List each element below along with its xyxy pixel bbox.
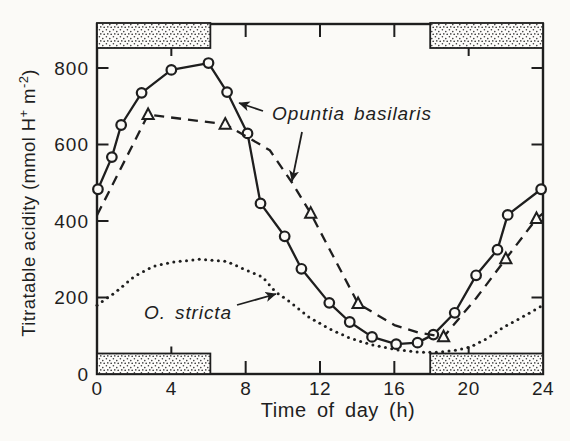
dot-marker: [116, 289, 119, 292]
dot-marker: [378, 345, 381, 348]
dot-marker: [96, 304, 99, 307]
circle-marker: [471, 271, 481, 281]
dot-marker: [229, 262, 232, 265]
dot-marker: [428, 351, 431, 354]
dot-marker: [131, 276, 134, 279]
y-tick-label-200: 200: [54, 287, 89, 308]
y-axis-label: Titratable acidity (mmol H+ m-2): [16, 69, 39, 337]
circle-marker: [107, 152, 117, 162]
x-tick-label-12: 12: [309, 378, 331, 399]
dark-period-bar-top-0: [97, 23, 210, 48]
dot-marker: [365, 342, 368, 345]
dot-marker: [223, 260, 226, 263]
dot-marker: [185, 259, 188, 262]
circle-marker: [243, 129, 253, 139]
dot-marker: [466, 346, 469, 349]
dot-marker: [302, 311, 305, 314]
dot-marker: [313, 319, 316, 322]
dark-period-bar-bottom-1: [430, 354, 543, 375]
dot-marker: [335, 331, 338, 334]
dot-marker: [241, 267, 244, 270]
circle-marker: [324, 298, 334, 308]
dot-marker: [448, 349, 451, 352]
dot-marker: [148, 267, 151, 270]
circle-marker: [222, 87, 232, 97]
dot-marker: [210, 259, 213, 262]
dot-marker: [528, 312, 531, 315]
circle-marker: [116, 120, 126, 130]
y-tick-label-600: 600: [54, 134, 89, 155]
circle-marker: [137, 88, 147, 98]
y-tick-label-0: 0: [77, 364, 89, 385]
dot-marker: [292, 303, 295, 306]
circle-marker: [536, 184, 546, 194]
dot-marker: [191, 258, 194, 261]
dot-marker: [160, 263, 163, 266]
dot-marker: [478, 341, 481, 344]
dot-marker: [454, 349, 457, 352]
dot-marker: [287, 299, 290, 302]
x-tick-label-24: 24: [532, 378, 554, 399]
dot-marker: [494, 331, 497, 334]
dot-marker: [484, 338, 487, 341]
dot-marker: [121, 285, 124, 288]
dot-marker: [522, 315, 525, 318]
label-o-stricta: O. stricta: [144, 302, 232, 323]
dot-marker: [101, 300, 104, 303]
circle-marker: [204, 58, 214, 68]
dot-marker: [253, 272, 256, 275]
x-axis-label: Time of day (h): [261, 399, 416, 421]
dot-marker: [329, 328, 332, 331]
dot-marker: [390, 347, 393, 350]
dot-marker: [235, 264, 238, 267]
circle-marker: [345, 317, 355, 327]
dot-marker: [282, 296, 285, 299]
dot-marker: [403, 349, 406, 352]
dot-marker: [318, 322, 321, 325]
dot-marker: [264, 278, 267, 281]
x-tick-label-4: 4: [166, 378, 177, 399]
dot-marker: [154, 265, 157, 268]
dot-marker: [268, 283, 271, 286]
circle-marker: [391, 339, 401, 349]
dot-marker: [384, 346, 387, 349]
dot-marker: [297, 307, 300, 310]
dot-marker: [324, 325, 327, 328]
dot-marker: [179, 260, 182, 263]
circle-marker: [450, 308, 460, 318]
dot-marker: [472, 344, 475, 347]
figure-container: 020040060080004812162024Time of day (h)T…: [0, 0, 570, 441]
dot-marker: [277, 292, 280, 295]
dot-marker: [126, 281, 129, 284]
dot-marker: [272, 288, 275, 291]
dot-marker: [142, 270, 145, 273]
circle-marker: [167, 65, 177, 75]
dot-marker: [247, 270, 250, 273]
dot-marker: [422, 351, 425, 354]
dot-marker: [359, 340, 362, 343]
dot-marker: [217, 259, 220, 262]
dot-marker: [307, 315, 310, 318]
dark-period-bar-bottom-0: [97, 354, 210, 375]
circle-marker: [280, 232, 290, 242]
dot-marker: [500, 327, 503, 330]
dot-marker: [198, 258, 201, 261]
x-tick-label-0: 0: [91, 378, 102, 399]
x-tick-label-8: 8: [240, 378, 251, 399]
circle-marker: [367, 332, 377, 342]
dot-marker: [460, 347, 463, 350]
dot-marker: [204, 258, 207, 261]
dot-marker: [111, 293, 114, 296]
dot-marker: [489, 335, 492, 338]
circle-marker: [256, 199, 266, 209]
y-tick-label-800: 800: [54, 58, 89, 79]
dot-marker: [441, 350, 444, 353]
titratable-acidity-chart: 020040060080004812162024Time of day (h)T…: [0, 0, 570, 441]
dot-marker: [397, 348, 400, 351]
dot-marker: [353, 338, 356, 341]
dot-marker: [435, 351, 438, 354]
dot-marker: [533, 308, 536, 311]
x-tick-label-20: 20: [458, 378, 480, 399]
dot-marker: [511, 321, 514, 324]
x-tick-label-16: 16: [383, 378, 405, 399]
